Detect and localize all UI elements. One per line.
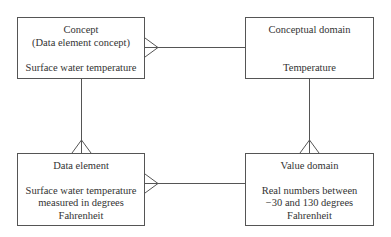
entity-title: Value domain [246, 160, 373, 173]
er-diagram: Concept (Data element concept) Surface w… [0, 0, 391, 237]
entity-value: Surface water temperature [18, 62, 144, 75]
entity-value-line: Surface water temperature [18, 185, 144, 198]
entity-subtitle: (Data element concept) [18, 37, 144, 50]
entity-value: Temperature [246, 62, 373, 75]
entity-value-domain: Value domain Real numbers between −30 an… [245, 153, 374, 226]
entity-value-line: measured in degrees [18, 197, 144, 210]
entity-title: Conceptual domain [246, 24, 373, 37]
entity-title: Concept [18, 24, 144, 37]
entity-value-line: Fahrenheit [246, 210, 373, 223]
entity-value-line: Fahrenheit [18, 210, 144, 223]
entity-value-line: −30 and 130 degrees [246, 197, 373, 210]
entity-data-element: Data element Surface water temperature m… [17, 153, 145, 226]
entity-title: Data element [18, 160, 144, 173]
entity-concept: Concept (Data element concept) Surface w… [17, 17, 145, 79]
entity-value-line: Real numbers between [246, 185, 373, 198]
entity-conceptual-domain: Conceptual domain Temperature [245, 17, 374, 79]
